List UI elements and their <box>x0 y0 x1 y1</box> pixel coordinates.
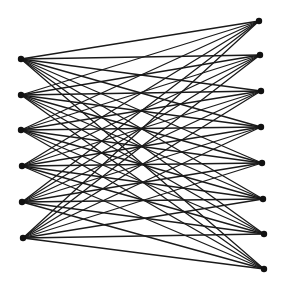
right-node-5 <box>260 196 266 202</box>
right-node-3 <box>258 124 264 130</box>
right-node-6 <box>261 231 267 237</box>
right-node-2 <box>258 88 264 94</box>
right-node-1 <box>257 52 263 58</box>
left-node-3 <box>19 163 25 169</box>
right-node-7 <box>261 266 267 272</box>
right-node-4 <box>259 160 265 166</box>
left-node-0 <box>18 56 24 62</box>
edge-l2-r1 <box>21 55 260 130</box>
edge-l4-r1 <box>22 55 260 202</box>
edge-group <box>21 21 264 269</box>
left-node-2 <box>18 127 24 133</box>
right-node-0 <box>256 18 262 24</box>
left-node-group <box>18 56 26 241</box>
left-node-4 <box>19 199 25 205</box>
left-node-5 <box>20 235 26 241</box>
left-node-1 <box>18 92 24 98</box>
bipartite-graph-diagram <box>0 0 281 287</box>
